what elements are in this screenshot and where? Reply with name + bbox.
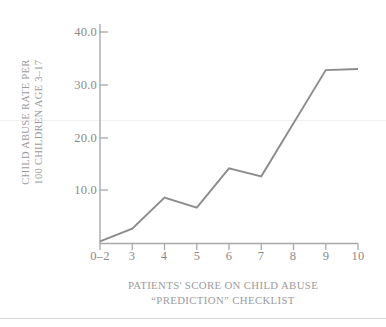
x-axis-title-line-2: “PREDICTION” CHECKLIST (64, 293, 382, 308)
page-bottom-rule (0, 318, 386, 319)
x-axis-title: PATIENTS' SCORE ON CHILD ABUSE “PREDICTI… (64, 278, 382, 307)
chart-figure: CHILD ABUSE RATE PER 100 CHILDREN AGE 3–… (0, 0, 386, 327)
x-tick-label-10: 10 (338, 249, 378, 264)
data-series-line (100, 69, 358, 241)
x-axis-title-line-1: PATIENTS' SCORE ON CHILD ABUSE (64, 278, 382, 293)
